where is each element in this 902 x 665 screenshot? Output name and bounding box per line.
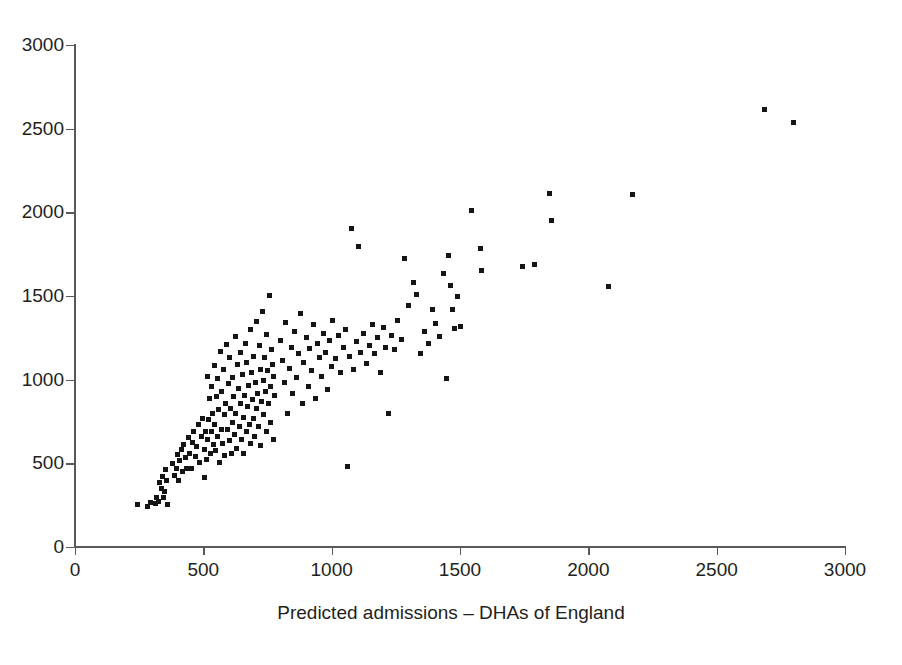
y-axis-tick	[66, 547, 74, 548]
y-axis-tick	[66, 463, 74, 464]
y-axis-tick-label: 1500	[22, 285, 64, 307]
y-axis-tick-labels: 050010001500200025003000	[0, 45, 64, 547]
x-axis-tick	[203, 547, 204, 555]
y-axis-tick-label: 0	[53, 536, 64, 558]
x-axis-tick	[75, 547, 76, 555]
x-axis-tick-labels: 050010001500200025003000	[75, 45, 845, 547]
x-axis-tick-label: 1000	[311, 559, 353, 581]
y-axis-tick-label: 500	[32, 452, 64, 474]
x-axis-tick-label: 2500	[696, 559, 738, 581]
x-axis-tick-label: 1500	[439, 559, 481, 581]
y-axis-tick	[66, 380, 74, 381]
y-axis-tick-label: 3000	[22, 34, 64, 56]
x-axis-tick-label: 2000	[567, 559, 609, 581]
x-axis-tick	[588, 547, 589, 555]
y-axis-tick-label: 2000	[22, 201, 64, 223]
x-axis-tick-label: 500	[187, 559, 219, 581]
x-axis-tick	[717, 547, 718, 555]
x-axis-tick-label: 3000	[824, 559, 866, 581]
y-axis-tick-label: 2500	[22, 118, 64, 140]
scatter-plot-figure: Actual no. of admissions 050010001500200…	[0, 0, 902, 665]
y-axis-tick	[66, 212, 74, 213]
x-axis-tick	[332, 547, 333, 555]
y-axis-tick	[66, 296, 74, 297]
y-axis-tick	[66, 45, 74, 46]
y-axis-tick-label: 1000	[22, 369, 64, 391]
x-axis-title-label: Predicted admissions – DHAs of England	[0, 602, 902, 624]
x-axis-tick-label: 0	[70, 559, 81, 581]
y-axis-tick	[66, 129, 74, 130]
x-axis-tick	[460, 547, 461, 555]
x-axis-tick	[845, 547, 846, 555]
